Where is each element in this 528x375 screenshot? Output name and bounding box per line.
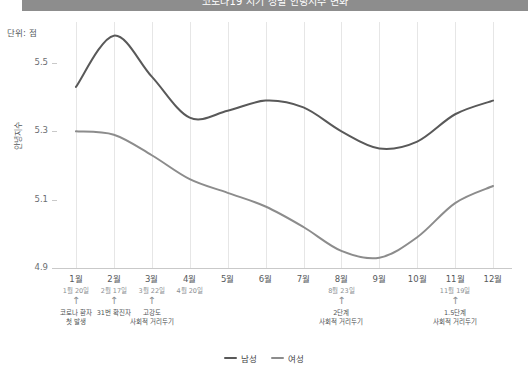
annotation-event-line2: 사회적 거리두기 xyxy=(319,318,363,327)
annotation-event-label: 1.5단계사회적 거리두기 xyxy=(433,309,477,326)
annotation-event-label: 2단계사회적 거리두기 xyxy=(319,309,363,326)
chart-page: 코로나19 시기 성별 안녕지수 변화 단위: 점 안녕지수 4.95.15.3… xyxy=(0,0,528,375)
x-axis-label-9월: 9월 xyxy=(373,272,386,284)
legend-item-male: 남성 xyxy=(224,352,257,364)
legend-item-female: 여성 xyxy=(271,352,304,364)
line-series-female xyxy=(76,131,493,258)
x-axis-label-11월: 11월 xyxy=(446,272,465,284)
annotation-date: 3월 22일 xyxy=(139,285,165,295)
unit-label: 단위: 점 xyxy=(7,26,37,38)
series-lines xyxy=(57,22,512,268)
x-axis-label-2월: 2월 xyxy=(107,272,120,284)
annotation-date: 1월 20일 xyxy=(63,285,89,295)
x-axis-label-5월: 5월 xyxy=(221,272,234,284)
legend-swatch-male xyxy=(224,357,237,359)
annotation-event-line1: 1.5단계 xyxy=(433,309,477,318)
y-tick-label: 4.9 xyxy=(0,262,48,272)
x-axis-label-6월: 6월 xyxy=(259,272,272,284)
annotation-event-line1: 코로나 환자 xyxy=(60,309,92,318)
x-axis-label-8월: 8월 xyxy=(335,272,348,284)
header-bar-title: 코로나19 시기 성별 안녕지수 변화 xyxy=(22,0,528,8)
arrow-up-icon: ↑ xyxy=(148,296,156,306)
line-series-male xyxy=(76,36,493,149)
arrow-up-icon: ↑ xyxy=(451,296,459,306)
legend-label-male: 남성 xyxy=(241,352,257,364)
annotation-event-line2: 사회적 거리두기 xyxy=(433,318,477,327)
arrow-up-icon: ↑ xyxy=(337,296,345,306)
annotation-event-line2: 사회적 거리두기 xyxy=(130,318,174,327)
chart-legend: 남성 여성 xyxy=(0,352,528,364)
x-axis-baseline xyxy=(57,268,512,269)
annotation-date: 11월 19일 xyxy=(440,285,471,295)
annotation-event-line2: 첫 발생 xyxy=(60,318,92,327)
x-axis-label-1월: 1월 xyxy=(69,272,82,284)
y-tick-label: 5.5 xyxy=(0,57,48,67)
y-tick-label: 5.1 xyxy=(0,194,48,204)
annotation-event-line1: 고강도 xyxy=(130,309,174,318)
legend-label-female: 여성 xyxy=(288,352,304,364)
annotation-event-label: 고강도사회적 거리두기 xyxy=(130,309,174,326)
arrow-up-icon: ↑ xyxy=(72,296,80,306)
annotation-date: 4월 20일 xyxy=(176,285,202,295)
annotation-date: 2월 17일 xyxy=(101,285,127,295)
annotation-event-line1: 2단계 xyxy=(319,309,363,318)
annotation-event-label: 코로나 환자첫 발생 xyxy=(60,309,92,326)
x-axis-label-12월: 12월 xyxy=(484,272,503,284)
annotation-date: 8월 23일 xyxy=(328,285,354,295)
legend-swatch-female xyxy=(271,357,284,359)
x-axis-label-4월: 4월 xyxy=(183,272,196,284)
x-axis-label-7월: 7월 xyxy=(297,272,310,284)
header-bar: 코로나19 시기 성별 안녕지수 변화 xyxy=(22,0,528,11)
annotation-event-line1: 31번 확진자 xyxy=(97,309,131,318)
x-axis-label-10월: 10월 xyxy=(408,272,427,284)
plot-area xyxy=(57,22,512,268)
y-tick-label: 5.3 xyxy=(0,125,48,135)
annotation-event-label: 31번 확진자 xyxy=(97,309,131,318)
arrow-up-icon: ↑ xyxy=(110,296,118,306)
x-axis-label-3월: 3월 xyxy=(145,272,158,284)
